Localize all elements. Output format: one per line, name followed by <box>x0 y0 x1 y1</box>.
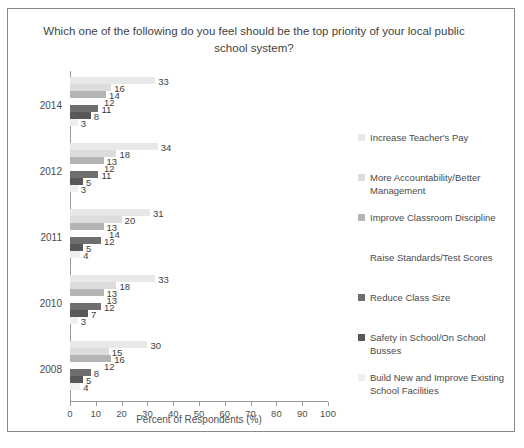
x-tick <box>302 402 303 406</box>
legend-label: Raise Standards/Test Scores <box>370 251 493 264</box>
bar[interactable] <box>70 91 106 98</box>
bar[interactable] <box>70 98 101 105</box>
bar-row[interactable]: 3 <box>70 317 328 324</box>
legend-swatch-icon <box>358 294 365 301</box>
bar[interactable] <box>70 341 147 348</box>
legend-label: Increase Teacher's Pay <box>370 131 468 144</box>
bar-row[interactable]: 11 <box>70 171 328 178</box>
legend-swatch-icon <box>358 374 365 381</box>
year-label: 2008 <box>40 364 62 375</box>
bar-row[interactable]: 34 <box>70 143 328 150</box>
legend-swatch-icon <box>358 174 365 181</box>
bar-row[interactable]: 8 <box>70 369 328 376</box>
legend-item[interactable]: Build New and Improve Existing School Fa… <box>358 371 508 397</box>
x-tick <box>225 402 226 406</box>
bar-row[interactable]: 12 <box>70 237 328 244</box>
legend-label: Safety in School/On School Busses <box>370 331 508 357</box>
bar[interactable] <box>70 77 155 84</box>
bar-value-label: 3 <box>81 315 86 326</box>
bar-row[interactable]: 5 <box>70 244 328 251</box>
legend-label: Improve Classroom Discipline <box>370 211 496 224</box>
bar-row[interactable]: 3 <box>70 185 328 192</box>
bar-group: 2012341813121153 <box>70 143 328 199</box>
bar[interactable] <box>70 209 150 216</box>
legend-item[interactable]: Safety in School/On School Busses <box>358 331 508 357</box>
year-label: 2012 <box>40 166 62 177</box>
x-tick <box>276 402 277 406</box>
bar[interactable] <box>70 289 104 296</box>
year-label: 2010 <box>40 298 62 309</box>
bar[interactable] <box>70 164 101 171</box>
bar-row[interactable]: 33 <box>70 77 328 84</box>
x-tick <box>96 402 97 406</box>
bar-row[interactable]: 5 <box>70 178 328 185</box>
x-tick <box>70 402 71 406</box>
bar-row[interactable]: 4 <box>70 383 328 390</box>
bar[interactable] <box>70 157 104 164</box>
bar[interactable] <box>70 251 80 258</box>
bar-row[interactable]: 11 <box>70 105 328 112</box>
bar-row[interactable]: 4 <box>70 251 328 258</box>
bar-row[interactable]: 3 <box>70 119 328 126</box>
legend-swatch-icon <box>358 214 365 221</box>
bar-row[interactable]: 33 <box>70 275 328 282</box>
bar[interactable] <box>70 223 104 230</box>
bar[interactable] <box>70 296 104 303</box>
bar-group: 2010331813131273 <box>70 275 328 331</box>
legend-label: More Accountability/Better Management <box>370 171 508 197</box>
bar-group: 200830151612854 <box>70 341 328 397</box>
bar[interactable] <box>70 317 78 324</box>
bar-row[interactable]: 7 <box>70 310 328 317</box>
legend-swatch-icon <box>358 254 365 261</box>
chart-figure: Which one of the following do you feel s… <box>7 8 515 432</box>
bar[interactable] <box>70 119 78 126</box>
bar-row[interactable]: 12 <box>70 303 328 310</box>
x-tick <box>122 402 123 406</box>
bar[interactable] <box>70 376 83 383</box>
legend-label: Reduce Class Size <box>370 291 450 304</box>
bar-value-label: 3 <box>81 183 86 194</box>
bar-value-label: 3 <box>81 117 86 128</box>
year-label: 2014 <box>40 100 62 111</box>
legend-item[interactable]: Raise Standards/Test Scores <box>358 251 508 264</box>
legend-label: Build New and Improve Existing School Fa… <box>370 371 508 397</box>
x-tick <box>251 402 252 406</box>
bar-row[interactable]: 30 <box>70 341 328 348</box>
bar[interactable] <box>70 383 80 390</box>
year-label: 2011 <box>40 232 62 243</box>
bar[interactable] <box>70 230 106 237</box>
legend-item[interactable]: Reduce Class Size <box>358 291 508 304</box>
x-tick <box>173 402 174 406</box>
x-tick <box>147 402 148 406</box>
legend-swatch-icon <box>358 334 365 341</box>
bar[interactable] <box>70 348 109 355</box>
plot-area: 0102030405060708090100 20143316141211832… <box>70 71 328 401</box>
bar-group: 2014331614121183 <box>70 77 328 133</box>
legend-item[interactable]: Improve Classroom Discipline <box>358 211 508 224</box>
bar[interactable] <box>70 275 155 282</box>
bar[interactable] <box>70 84 111 91</box>
legend-item[interactable]: Increase Teacher's Pay <box>358 131 508 144</box>
bar[interactable] <box>70 143 158 150</box>
bar[interactable] <box>70 244 83 251</box>
bar[interactable] <box>70 185 78 192</box>
legend-item[interactable]: More Accountability/Better Management <box>358 171 508 197</box>
bar-row[interactable]: 5 <box>70 376 328 383</box>
bar-value-label: 4 <box>83 381 88 392</box>
bar-row[interactable]: 31 <box>70 209 328 216</box>
legend-swatch-icon <box>358 134 365 141</box>
bar-row[interactable]: 12 <box>70 362 328 369</box>
bar-row[interactable]: 8 <box>70 112 328 119</box>
bar-group: 2011312013141254 <box>70 209 328 265</box>
x-tick <box>328 402 329 406</box>
bar[interactable] <box>70 171 98 178</box>
x-tick <box>199 402 200 406</box>
x-axis-title: Percent of Respondents (%) <box>70 414 328 425</box>
bar-row[interactable]: 15 <box>70 348 328 355</box>
bar-value-label: 4 <box>83 249 88 260</box>
chart-title: Which one of the following do you feel s… <box>34 23 474 57</box>
